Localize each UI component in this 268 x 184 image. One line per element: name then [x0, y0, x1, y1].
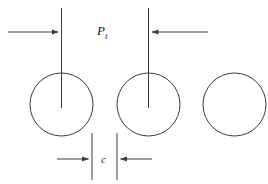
pitch-label-symbol: P: [96, 23, 105, 38]
clearance-label: c: [101, 153, 106, 165]
tube-pitch-diagram: Pt c: [0, 0, 268, 184]
pitch-label-subscript: t: [105, 31, 108, 41]
pitch-label: Pt: [96, 23, 108, 41]
diagram-canvas: Pt c: [0, 0, 268, 184]
tube-circle-3: [203, 73, 266, 136]
